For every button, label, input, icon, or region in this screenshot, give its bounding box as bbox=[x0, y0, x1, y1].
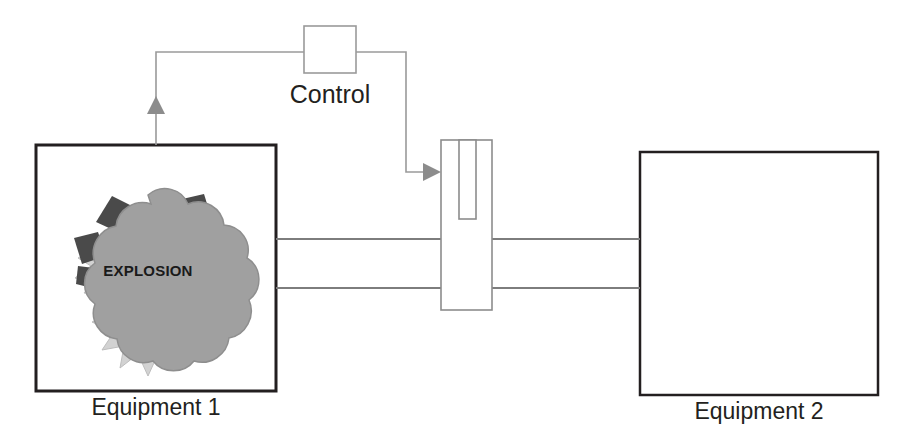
equipment1-label: Equipment 1 bbox=[36, 394, 276, 421]
explosion-graphic bbox=[74, 189, 259, 376]
valve-assembly[interactable] bbox=[441, 140, 492, 310]
control-label: Control bbox=[268, 80, 392, 109]
diagram-canvas: EXPLOSION Equipment 1 Equipment 2 Contro… bbox=[0, 0, 910, 446]
arrowhead-right-icon bbox=[423, 163, 441, 181]
connector-control-to-valve bbox=[356, 52, 441, 181]
equipment2-label: Equipment 2 bbox=[640, 398, 878, 425]
diagram-vector-layer bbox=[0, 0, 910, 446]
control-box[interactable] bbox=[304, 26, 356, 73]
connector-line-right bbox=[356, 52, 430, 172]
valve-stem bbox=[459, 140, 476, 219]
equipment2-box[interactable] bbox=[640, 152, 878, 395]
arrowhead-up-icon bbox=[147, 96, 165, 114]
